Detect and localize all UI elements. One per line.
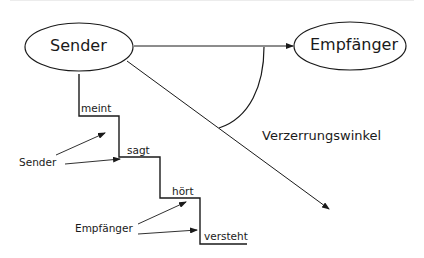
step-sagt: sagt: [127, 145, 150, 156]
side-label-sender: Sender: [19, 157, 56, 168]
step-meint: meint: [81, 103, 111, 114]
step-hoert: hört: [172, 186, 194, 197]
step-versteht: versteht: [204, 231, 248, 242]
sender-arrow-sagt: [65, 159, 120, 164]
distortion-angle-arc: [219, 47, 264, 128]
receiver-arrow-hoert: [138, 202, 186, 224]
side-label-receiver: Empfänger: [75, 223, 133, 234]
receiver-node-label: Empfänger: [310, 37, 398, 53]
distortion-angle-label: Verzerrungswinkel: [262, 129, 381, 142]
communication-staircase: [79, 74, 247, 244]
sender-arrow-meint: [56, 133, 105, 155]
receiver-arrow-versteht: [138, 230, 197, 234]
sender-node-label: Sender: [50, 38, 107, 54]
